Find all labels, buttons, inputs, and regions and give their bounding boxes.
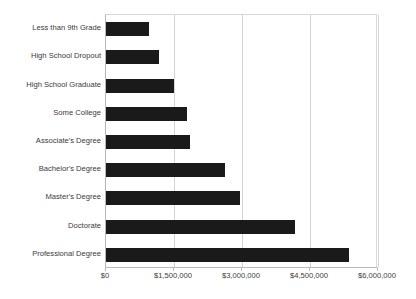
bar	[106, 107, 187, 121]
y-axis-tick-label: Doctorate	[2, 221, 101, 230]
y-axis-tick-label: Some College	[2, 108, 101, 117]
x-axis-tick-label: $3,000,000	[222, 271, 260, 280]
bar-chart: Less than 9th GradeHigh School DropoutHi…	[0, 0, 416, 299]
bar	[106, 22, 149, 36]
bar	[106, 248, 349, 262]
bar	[106, 220, 295, 234]
y-axis-tick-label: Less than 9th Grade	[2, 23, 101, 32]
x-axis-tick-label: $1,500,000	[154, 271, 192, 280]
x-axis-tick-label: $0	[101, 271, 109, 280]
bar	[106, 135, 190, 149]
bar-row	[106, 100, 376, 128]
gridline	[378, 15, 379, 267]
y-axis-tick-label: Associate's Degree	[2, 136, 101, 145]
bar-row	[106, 43, 376, 71]
bar-row	[106, 241, 376, 269]
y-axis-tick-label: Bachelor's Degree	[2, 164, 101, 173]
bar	[106, 50, 159, 64]
bar	[106, 163, 225, 177]
y-axis-tick-label: High School Graduate	[2, 80, 101, 89]
bar	[106, 79, 174, 93]
bar-row	[106, 156, 376, 184]
bar-row	[106, 71, 376, 99]
y-axis-tick-label: Professional Degree	[2, 249, 101, 258]
bar-row	[106, 184, 376, 212]
y-axis-labels: Less than 9th GradeHigh School DropoutHi…	[0, 14, 101, 268]
bar-row	[106, 15, 376, 43]
plot-area	[105, 14, 377, 268]
bar-row	[106, 213, 376, 241]
x-axis-tick-label: $4,500,000	[290, 271, 328, 280]
y-axis-tick-label: Master's Degree	[2, 192, 101, 201]
bar	[106, 191, 240, 205]
x-axis-tick-label: $6,000,000	[358, 271, 396, 280]
y-axis-tick-label: High School Dropout	[2, 51, 101, 60]
x-axis-labels: $0$1,500,000$3,000,000$4,500,000$6,000,0…	[0, 271, 416, 285]
bar-row	[106, 128, 376, 156]
